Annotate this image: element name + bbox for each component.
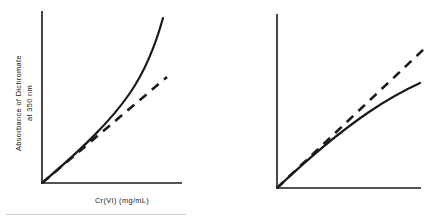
caption-divider [6,214,186,215]
measured-absorbance-curve [42,18,163,183]
measured-absorbance-curve [277,83,420,188]
figure-container: Absorbance of Dichromate at 350 nm Cr(VI… [0,0,442,217]
chromate-panel: Absorbance of Chromate at 375 nm Cr(VI) … [221,0,442,217]
dichromate-panel: Absorbance of Dichromate at 350 nm Cr(VI… [0,0,221,217]
x-axis-label: Cr(VI) (mg/mL) [42,196,202,205]
chromate-plot [221,0,442,217]
y-axis-label: Absorbance of Dichromate at 350 nm [14,28,35,178]
